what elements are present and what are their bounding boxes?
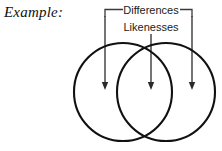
venn-diagram-figure: Example: Differences Likenesses <box>0 0 222 151</box>
right-circle <box>117 43 215 141</box>
venn-circles <box>74 43 215 141</box>
center-arrow-head <box>148 82 154 90</box>
differences-label: Differences <box>123 4 179 16</box>
left-circle <box>74 43 172 141</box>
likenesses-label: Likenesses <box>123 21 179 33</box>
right-arrow-head <box>189 82 195 90</box>
left-arrow-head <box>102 82 108 90</box>
diagram-canvas: Differences Likenesses <box>0 0 222 151</box>
